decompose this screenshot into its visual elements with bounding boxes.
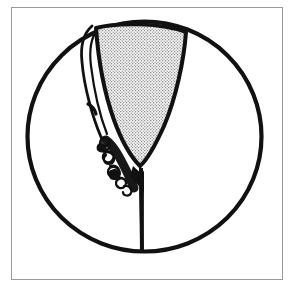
figure-root [0,0,295,290]
stem-line [141,168,142,252]
illustration-canvas [0,0,295,290]
